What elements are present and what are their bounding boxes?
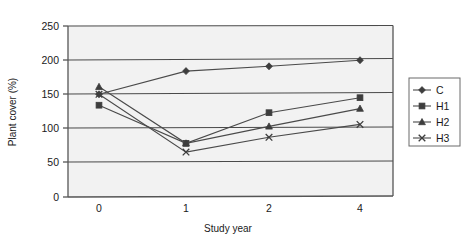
series-H1-point-0 <box>96 102 102 108</box>
x-tick-label-4: 4 <box>357 202 363 214</box>
series-H1-point-3 <box>357 95 363 101</box>
legend-marker-square-icon <box>419 103 425 109</box>
y-tick-label-200: 200 <box>41 54 59 66</box>
y-tick-label-250: 250 <box>41 20 59 32</box>
y-tick-label-150: 150 <box>41 88 59 100</box>
legend-box <box>409 78 460 146</box>
y-axis-title: Plant cover (%) <box>7 78 18 146</box>
legend-label-H2: H2 <box>436 116 450 128</box>
gridline-250 <box>68 26 393 27</box>
legend: C H1 H2 H3 <box>409 78 460 146</box>
series-H1-point-2 <box>266 110 272 116</box>
y-tick-label-100: 100 <box>41 122 59 134</box>
y-tick-label-0: 0 <box>53 191 59 203</box>
legend-label-C: C <box>436 84 444 96</box>
legend-label-H3: H3 <box>436 132 450 144</box>
x-axis-title: Study year <box>204 223 252 234</box>
x-tick-label-0: 0 <box>96 202 102 214</box>
y-tick-label-50: 50 <box>47 156 59 168</box>
legend-label-H1: H1 <box>436 100 450 112</box>
line-chart: 250 200 150 100 50 0 0 1 2 4 Plant cover… <box>0 0 466 245</box>
x-tick-label-1: 1 <box>183 202 189 214</box>
x-tick-label-2: 2 <box>266 202 272 214</box>
chart-container: 250 200 150 100 50 0 0 1 2 4 Plant cover… <box>0 0 466 245</box>
